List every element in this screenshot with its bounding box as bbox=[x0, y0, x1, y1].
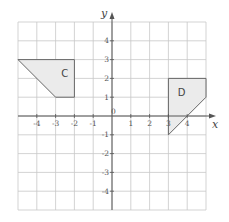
y-tick-label: 1 bbox=[104, 93, 109, 102]
y-tick-label: 3 bbox=[104, 55, 109, 64]
y-tick-label: 2 bbox=[104, 74, 109, 83]
shape-label-d: D bbox=[178, 87, 186, 98]
y-axis-arrow-icon bbox=[110, 12, 115, 19]
x-tick-label: -2 bbox=[71, 119, 79, 128]
x-tick-label: 2 bbox=[147, 119, 152, 128]
x-tick-label: 3 bbox=[166, 119, 171, 128]
y-tick-label: -4 bbox=[102, 187, 110, 196]
x-tick-label: -1 bbox=[90, 119, 97, 128]
x-tick-label: 1 bbox=[128, 119, 133, 128]
y-tick-label: -2 bbox=[102, 149, 110, 158]
coordinate-grid: CD x y 0 -4-3-2-112344321-1-2-3-4 bbox=[0, 0, 229, 222]
origin-label: 0 bbox=[111, 107, 116, 116]
y-axis-label: y bbox=[100, 7, 108, 20]
x-tick-label: -4 bbox=[33, 119, 41, 128]
y-tick-label: -3 bbox=[102, 168, 110, 177]
shape-label-c: C bbox=[61, 68, 68, 79]
x-axis-label: x bbox=[212, 118, 219, 131]
y-tick-label: -1 bbox=[102, 130, 109, 139]
y-tick-label: 4 bbox=[104, 36, 109, 45]
x-tick-label: 4 bbox=[185, 119, 190, 128]
x-tick-label: -3 bbox=[52, 119, 60, 128]
